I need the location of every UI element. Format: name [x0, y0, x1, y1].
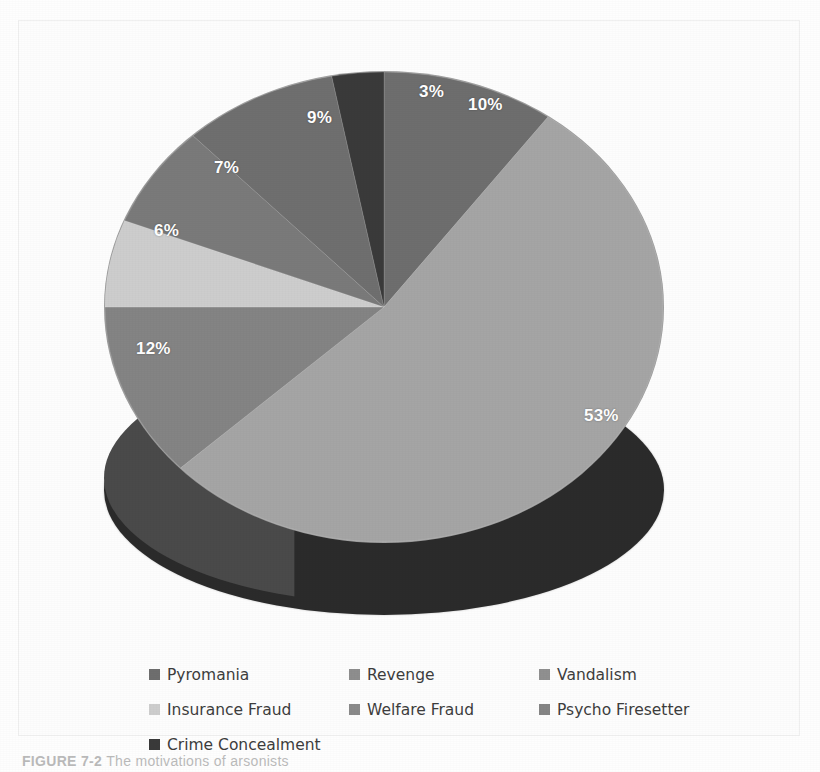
legend-swatch-icon — [539, 704, 550, 715]
chart-legend: Pyromania Revenge Vandalism Insurance Fr… — [149, 657, 729, 762]
slice-label-revenge: 53% — [584, 406, 619, 426]
legend-row: Pyromania Revenge Vandalism — [149, 657, 729, 692]
legend-label: Revenge — [367, 666, 435, 684]
legend-label: Psycho Firesetter — [557, 701, 689, 719]
legend-item-psycho-firesetter[interactable]: Psycho Firesetter — [539, 701, 729, 719]
legend-item-insurance-fraud[interactable]: Insurance Fraud — [149, 701, 349, 719]
legend-label: Vandalism — [557, 666, 637, 684]
figure-root: 10% 53% 12% 6% 7% 9% 3% Pyromania Reveng… — [0, 0, 820, 772]
legend-label: Crime Concealment — [167, 736, 321, 754]
legend-swatch-icon — [349, 704, 360, 715]
slice-label-pyromania: 10% — [468, 95, 503, 115]
legend-swatch-icon — [149, 739, 160, 750]
legend-label: Insurance Fraud — [167, 701, 291, 719]
figure-caption: FIGURE 7-2 The motivations of arsonists — [22, 753, 289, 772]
legend-item-welfare-fraud[interactable]: Welfare Fraud — [349, 701, 539, 719]
slice-label-welfare-fraud: 9% — [307, 108, 332, 128]
legend-swatch-icon — [349, 669, 360, 680]
slice-label-psycho-firesetter: 7% — [214, 158, 239, 178]
slice-label-crime-concealment: 3% — [419, 82, 444, 102]
legend-swatch-icon — [149, 669, 160, 680]
legend-swatch-icon — [149, 704, 160, 715]
legend-item-revenge[interactable]: Revenge — [349, 666, 539, 684]
chart-frame: 10% 53% 12% 6% 7% 9% 3% Pyromania Reveng… — [18, 20, 800, 736]
legend-swatch-icon — [539, 669, 550, 680]
legend-label: Welfare Fraud — [367, 701, 474, 719]
slice-label-vandalism: 12% — [136, 339, 171, 359]
slice-label-insurance-fraud: 6% — [154, 221, 179, 241]
legend-item-vandalism[interactable]: Vandalism — [539, 666, 729, 684]
pie-chart: 10% 53% 12% 6% 7% 9% 3% — [74, 43, 694, 613]
pie-slice-group — [105, 72, 663, 542]
figure-caption-text: The motivations of arsonists — [106, 753, 289, 769]
legend-item-pyromania[interactable]: Pyromania — [149, 666, 349, 684]
pie-top-face — [104, 71, 664, 543]
legend-item-crime-concealment[interactable]: Crime Concealment — [149, 736, 349, 754]
pie-slices-svg — [104, 71, 664, 543]
legend-label: Pyromania — [167, 666, 249, 684]
figure-caption-label: FIGURE 7-2 — [22, 753, 102, 769]
legend-row: Insurance Fraud Welfare Fraud Psycho Fir… — [149, 692, 729, 727]
